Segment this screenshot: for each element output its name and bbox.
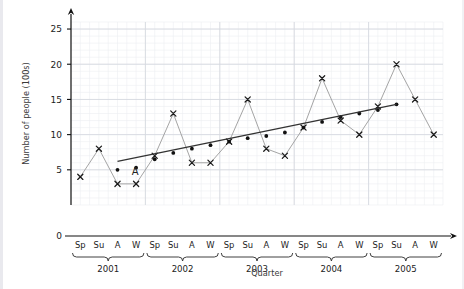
x-axis-category-labels: SpSuAWSpSuAWSpSuAWSpSuAWSpSuAW	[75, 240, 438, 250]
svg-text:Su: Su	[94, 240, 105, 250]
svg-text:W: W	[281, 240, 289, 250]
quarterly-people-line-chart: 0510152025 SpSuAWSpSuAWSpSuAWSpSuAWSpSuA…	[3, 0, 464, 289]
svg-text:A: A	[412, 240, 418, 250]
svg-text:20: 20	[51, 60, 63, 70]
axes	[65, 8, 457, 239]
svg-text:2004: 2004	[320, 264, 342, 274]
svg-text:W: W	[355, 240, 363, 250]
svg-text:Sp: Sp	[75, 240, 86, 250]
svg-text:Su: Su	[168, 240, 179, 250]
svg-text:Sp: Sp	[298, 240, 309, 250]
svg-text:25: 25	[51, 24, 62, 34]
svg-text:2001: 2001	[97, 264, 119, 274]
svg-text:2005: 2005	[395, 264, 417, 274]
minor-gridlines	[71, 22, 443, 205]
x-axis-title: Quarter	[251, 268, 283, 278]
svg-text:10: 10	[51, 130, 63, 140]
svg-text:2002: 2002	[172, 264, 194, 274]
y-axis-title: Number of people (100s)	[21, 62, 31, 165]
svg-text:A: A	[263, 240, 269, 250]
chart-frame: 0510152025 SpSuAWSpSuAWSpSuAWSpSuAWSpSuA…	[0, 0, 464, 289]
svg-text:15: 15	[51, 95, 62, 105]
svg-text:A: A	[115, 240, 121, 250]
svg-text:W: W	[132, 240, 140, 250]
svg-text:Sp: Sp	[373, 240, 384, 250]
svg-text:Su: Su	[317, 240, 328, 250]
chart-annotations: A	[132, 166, 139, 177]
svg-text:Su: Su	[391, 240, 402, 250]
y-axis-ticks: 0510152025	[51, 24, 71, 241]
svg-text:Su: Su	[242, 240, 253, 250]
svg-text:A: A	[189, 240, 195, 250]
year-group-braces	[72, 253, 441, 261]
svg-text:Sp: Sp	[224, 240, 235, 250]
svg-text:0: 0	[56, 231, 62, 241]
svg-text:5: 5	[56, 165, 62, 175]
svg-text:A: A	[132, 166, 139, 177]
svg-text:W: W	[430, 240, 438, 250]
svg-text:A: A	[338, 240, 344, 250]
svg-text:W: W	[206, 240, 214, 250]
svg-text:Sp: Sp	[149, 240, 160, 250]
